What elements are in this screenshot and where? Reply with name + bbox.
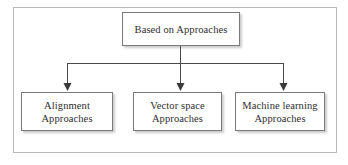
node-root-label: Based on Approaches <box>132 23 231 36</box>
diagram-canvas: Based on Approaches Alignment Approaches… <box>0 0 348 165</box>
node-vector-space-approaches: Vector space Approaches <box>133 92 222 131</box>
node-alignment-approaches: Alignment Approaches <box>21 92 113 131</box>
node-machine-learning-approaches-label: Machine learning Approaches <box>239 99 320 125</box>
node-root: Based on Approaches <box>122 12 240 46</box>
node-machine-learning-approaches: Machine learning Approaches <box>235 92 325 131</box>
node-vector-space-approaches-label: Vector space Approaches <box>147 99 208 125</box>
node-alignment-approaches-label: Alignment Approaches <box>38 99 95 125</box>
